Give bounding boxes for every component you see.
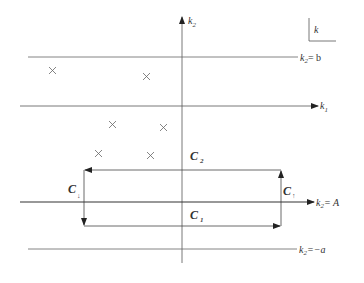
pole-marker — [95, 150, 102, 157]
pole-marker — [147, 152, 154, 159]
pole-marker — [49, 67, 56, 74]
label-c-down: C↓ — [68, 182, 81, 200]
plane-label: k — [314, 24, 319, 35]
line-k2-eq-neg-a-label: k2=−a — [299, 244, 325, 257]
pole-marker — [160, 124, 167, 131]
line-k2-eq-A-label: k2= A — [316, 197, 340, 210]
poles — [49, 67, 167, 159]
k1-axis-label: k1 — [320, 100, 328, 114]
pole-marker — [109, 121, 116, 128]
line-k2-eq-b-label: k2= b — [300, 52, 321, 65]
k2-axis-label: k2 — [188, 15, 196, 29]
pole-marker — [143, 73, 150, 80]
label-c2: C2 — [190, 149, 204, 165]
label-c-up: C↑ — [283, 184, 296, 200]
label-c1: C1 — [190, 208, 204, 224]
contour-diagram: k2 k k2= b k1 k2= A C2 C1 C↑ C↓ k2=−a — [0, 0, 364, 283]
